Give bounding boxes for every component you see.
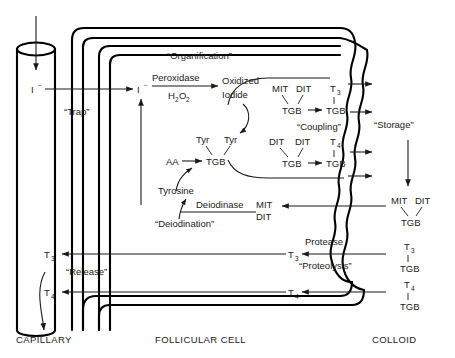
process-label-organification: “Organification” [167,50,232,61]
process-label-trap: “Trap” [64,106,90,117]
process-label-deiodination: “Deiodination” [155,218,214,229]
reaction-coupling-t4: DIT DIT TGB T 4 TGB [269,136,346,169]
svg-text:T: T [44,249,50,260]
return-dit-label: DIT [256,211,272,222]
thyroid-synthesis-figure: I − I − “Trap” “Organification” Peroxida… [0,0,455,358]
cytoplasm-t3: T 3 [288,249,299,262]
coupling-t4-substrate-carrier: TGB [282,158,302,169]
enzyme-peroxidase-label: Peroxidase [152,72,200,83]
reaction-tyrosine-iodination: Tyr Tyr TGB AA [166,134,237,167]
zone-label-colloid: COLLOID [372,334,417,345]
svg-text:H: H [168,90,175,101]
capillary-outflow-arrow [40,272,45,330]
diagram-canvas: I − I − “Trap” “Organification” Peroxida… [0,0,455,358]
process-label-coupling: “Coupling” [297,121,341,132]
release-t3-capillary-label: T 3 [44,249,55,262]
svg-text:T: T [288,287,294,298]
coupling-t4-product-sub: 4 [337,142,341,149]
cofactor-hydrogen-peroxide: H 2 O 2 [168,90,190,103]
store-mitdit-mit: MIT [391,195,408,206]
zone-label-capillary: CAPILLARY [16,334,72,345]
amino-acid-label: AA [166,156,179,167]
store-t3-sub: 3 [411,247,415,254]
deiodination-to-tyrosine-arrow [179,199,186,219]
process-label-storage: “Storage” [374,119,414,130]
enzyme-deiodinase-label: Deiodinase [196,199,244,210]
coupling-t3-mit: MIT [272,83,289,94]
return-mit-label: MIT [256,199,273,210]
coupling-t3-product-sub: 3 [337,89,341,96]
zone-label-follicular-cell: FOLLICULAR CELL [155,334,246,345]
process-label-release: “Release” [66,266,107,277]
store-mitdit-carrier: TGB [401,217,421,228]
coupling-t4-product: T [330,136,336,147]
svg-text:2: 2 [186,96,190,103]
colloid-store-t4: T 4 TGB [400,279,420,312]
iodide-cell-charge: − [144,82,148,89]
store-t4-label: T [404,279,410,290]
coupling-t3-product-carrier: TGB [326,105,346,116]
svg-text:3: 3 [295,255,299,262]
svg-text:T: T [44,287,50,298]
colloid-membrane-bottom [83,282,364,330]
oxidized-iodide-to-tyrosine-arrow [240,104,249,133]
cell-membrane-left [72,28,340,330]
svg-text:3: 3 [51,255,55,262]
iodide-cell-label: I [137,84,140,95]
svg-text:4: 4 [51,293,55,300]
colloid-store-mitdit: MIT DIT TGB [391,195,431,228]
svg-text:4: 4 [295,293,299,300]
store-t4-sub: 4 [411,285,415,292]
store-t4-carrier: TGB [400,301,420,312]
tyr-tgb-carrier-label: TGB [206,156,226,167]
coupling-t4-product-carrier: TGB [326,158,346,169]
process-label-proteolysis: “Proteolysis” [299,260,352,271]
release-t4-capillary-label: T 4 [44,287,55,300]
coupling-t3-substrate-carrier: TGB [282,105,302,116]
iodide-capillary-label: I [31,84,34,95]
coupling-t4-dit-left: DIT [269,136,285,147]
colloid-store-t3: T 3 TGB [400,241,420,274]
tyr-left-label: Tyr [196,134,209,145]
coupling-t3-dit: DIT [296,83,312,94]
store-mitdit-dit: DIT [415,195,431,206]
store-t3-label: T [404,241,410,252]
oxidized-iodide-line2: Iodide [222,89,248,100]
svg-text:T: T [288,249,294,260]
cytoplasm-t4: T 4 [288,287,299,300]
tyrosine-label: Tyrosine [158,185,194,196]
reaction-coupling-t3: MIT DIT TGB T 3 TGB [272,83,346,116]
store-t3-carrier: TGB [400,263,420,274]
iodide-capillary-charge: − [38,82,42,89]
enzyme-protease-label: Protease [305,236,343,247]
coupling-t4-dit-right: DIT [295,136,311,147]
coupling-t3-product: T [330,83,336,94]
tyr-right-label: Tyr [224,134,237,145]
